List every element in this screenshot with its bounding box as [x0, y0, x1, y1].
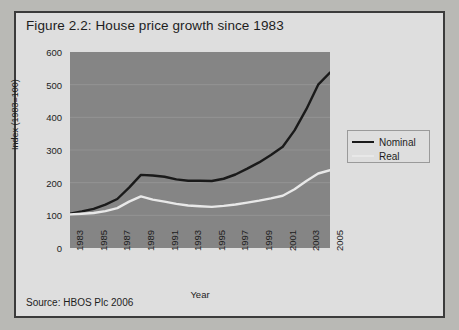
chart-legend: NominalReal	[347, 130, 430, 163]
chart-area: Index (1983=100) 6005004003002001000 198…	[16, 13, 443, 316]
x-axis-tick-label: 1985	[98, 230, 109, 251]
y-axis-tick-label: 500	[46, 79, 62, 90]
x-axis-tick-label: 1989	[145, 230, 156, 251]
y-axis: Index (1983=100) 6005004003002001000	[16, 13, 68, 253]
y-axis-tick-label: 0	[57, 243, 62, 254]
legend-item: Nominal	[352, 135, 416, 149]
x-axis-tick-label: 2003	[310, 230, 321, 251]
x-axis-tick-label: 1987	[121, 230, 132, 251]
x-axis-tick-label: 1991	[169, 230, 180, 251]
line-chart-svg	[70, 52, 330, 248]
y-axis-tick-label: 100	[46, 210, 62, 221]
figure-panel: Figure 2.2: House price growth since 198…	[14, 11, 445, 318]
y-axis-tick-label: 600	[46, 47, 62, 58]
source-note: Source: HBOS Plc 2006	[26, 297, 133, 308]
legend-swatch-icon	[352, 141, 374, 143]
y-axis-tick-label: 300	[46, 145, 62, 156]
legend-label: Nominal	[379, 137, 416, 148]
x-axis-tick-label: 2005	[334, 230, 345, 251]
x-axis-tick-label: 1983	[74, 230, 85, 251]
gridlines	[70, 85, 330, 216]
screenshot-root: Figure 2.2: House price growth since 198…	[0, 0, 459, 330]
x-axis-tick-label: 1993	[192, 230, 203, 251]
y-axis-title: Index (1983=100)	[10, 79, 20, 150]
x-axis-tick-label: 2001	[287, 230, 298, 251]
x-axis-tick-label: 1997	[239, 230, 250, 251]
y-axis-tick-label: 400	[46, 112, 62, 123]
legend-swatch-icon	[352, 155, 374, 157]
x-axis-tick-label: 1995	[216, 230, 227, 251]
legend-label: Real	[379, 151, 400, 162]
y-axis-tick-label: 200	[46, 177, 62, 188]
x-axis-tick-label: 1999	[263, 230, 274, 251]
legend-item: Real	[352, 149, 400, 163]
series-line-real	[70, 170, 330, 214]
plot-area	[70, 52, 330, 248]
series-lines	[70, 73, 330, 215]
